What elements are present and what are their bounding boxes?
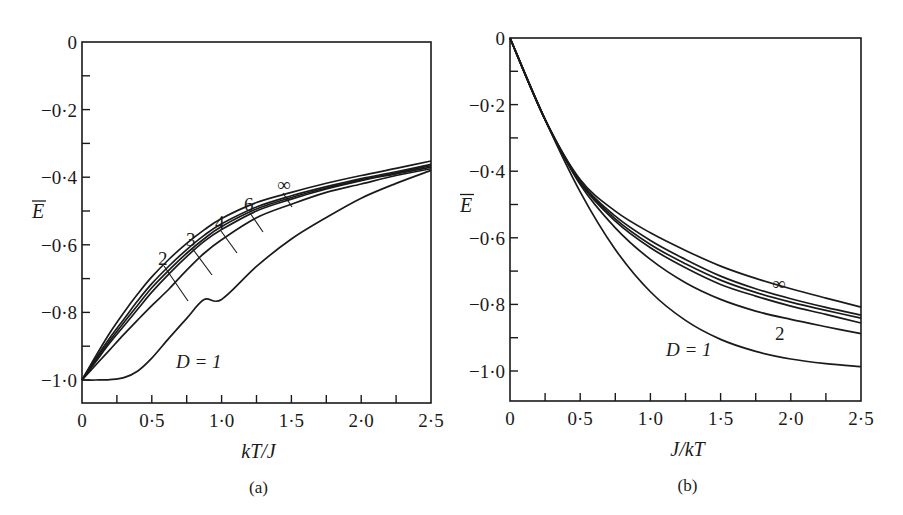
curve-d-infinity <box>510 38 861 307</box>
curve-label: 4 <box>215 212 225 233</box>
curve-label: D = 1 <box>175 351 222 372</box>
curve-d-1 <box>510 38 861 367</box>
figure: 00·51·01·52·02·50−0·2−0·4−0·6−0·8−1·0EkT… <box>0 0 903 515</box>
energy-curves-figure: 00·51·01·52·02·50−0·2−0·4−0·6−0·8−1·0EkT… <box>0 0 903 515</box>
curve-label: D = 1 <box>665 339 712 360</box>
panel-caption: (a) <box>249 478 268 497</box>
y-tick-label: −1·0 <box>469 361 505 382</box>
curve-label: 6 <box>244 194 254 215</box>
x-tick-label: 0·5 <box>568 408 593 429</box>
leader-line <box>164 266 188 301</box>
curve-d-3 <box>510 38 861 323</box>
curve-label: 3 <box>186 229 196 250</box>
y-tick-label: −0·6 <box>469 228 505 249</box>
y-tick-label: −0·8 <box>41 302 77 323</box>
x-tick-label: 0 <box>505 408 515 429</box>
y-tick-label: −0·6 <box>41 235 77 256</box>
y-tick-label: −0·8 <box>469 294 505 315</box>
x-tick-label: 2·5 <box>848 408 873 429</box>
curve-label: ∞ <box>772 273 786 294</box>
x-tick-label: 1·0 <box>209 410 234 431</box>
curve-d-2 <box>510 38 861 334</box>
x-tick-label: 2·0 <box>778 408 803 429</box>
y-axis-title: E <box>31 200 44 222</box>
x-tick-label: 2·5 <box>418 410 443 431</box>
y-tick-label: −0·2 <box>469 95 505 116</box>
y-tick-label: −1·0 <box>41 370 77 391</box>
x-axis-title: J/kT <box>670 438 706 460</box>
curve-d-3 <box>82 167 431 380</box>
x-tick-label: 1·0 <box>638 408 663 429</box>
panel-caption: (b) <box>678 476 698 495</box>
y-tick-label: 0 <box>496 28 506 49</box>
curve-d-infinity <box>82 161 431 380</box>
x-tick-label: 1·5 <box>708 408 733 429</box>
x-axis-title: kT/J <box>241 440 277 462</box>
curve-label: 2 <box>158 248 168 269</box>
y-tick-label: −0·4 <box>469 161 506 182</box>
y-tick-label: 0 <box>68 32 78 53</box>
curve-label: ∞ <box>277 174 291 195</box>
panel-a-energy-vs-temperature: 00·51·01·52·02·50−0·2−0·4−0·6−0·8−1·0EkT… <box>31 32 444 497</box>
y-tick-label: −0·2 <box>41 100 77 121</box>
curve-d-2 <box>82 169 431 380</box>
curve-d-6 <box>82 164 431 380</box>
curve-label: 2 <box>775 323 785 344</box>
x-tick-label: 2·0 <box>349 410 374 431</box>
curve-d-4 <box>510 38 861 318</box>
x-tick-label: 0·5 <box>139 410 164 431</box>
panel-b-energy-vs-coupling: 00·51·01·52·02·50−0·2−0·4−0·6−0·8−1·0EJ/… <box>459 28 874 495</box>
curve-d-4 <box>82 166 431 380</box>
y-axis-title: E <box>459 194 472 216</box>
y-tick-label: −0·4 <box>41 167 78 188</box>
x-tick-label: 0 <box>77 410 87 431</box>
curve-d-6 <box>510 38 861 315</box>
x-tick-label: 1·5 <box>279 410 304 431</box>
